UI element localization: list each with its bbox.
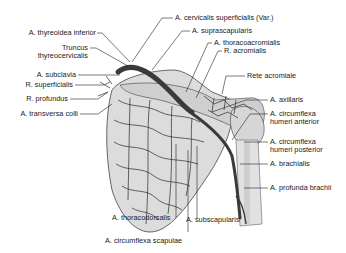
label-cervicalis-superficialis: A. cervicalis superficialis (Var.)	[175, 14, 273, 22]
label-r-acromialis: R. acromialis	[224, 47, 266, 55]
label-thyreoidea-inferior: A. thyreoidea inferior	[29, 29, 96, 37]
label-truncus-line2: thyreocervicalis	[38, 52, 88, 60]
label-subclavia: A. subclavia	[37, 71, 76, 79]
label-circumflexa-humeri-posterior-line2: humeri posterior	[270, 146, 323, 154]
label-rete-acromiale: Rete acromiale	[247, 72, 296, 80]
shoulder-artery-illustration	[0, 0, 346, 253]
label-suprascapularis: A. suprascapularis	[192, 27, 252, 35]
label-circumflexa-humeri-anterior-line2: humeri anterior	[270, 118, 319, 126]
label-brachialis: A. brachialis	[270, 160, 310, 168]
label-axillaris: A. axillaris	[270, 96, 303, 104]
label-transversa-colli: A. transversa colli	[20, 110, 78, 118]
label-r-superficialis: R. superficialis	[26, 81, 73, 89]
label-circumflexa-scapulae: A. circumflexa scapulae	[105, 237, 182, 245]
label-thoracodorsalis: A. thoracodorsalis	[112, 214, 170, 222]
label-subscapularis: A. subscapularis	[186, 216, 240, 224]
label-r-profundus: R. profundus	[26, 95, 68, 103]
label-profunda-brachii: A. profunda brachii	[270, 184, 331, 192]
